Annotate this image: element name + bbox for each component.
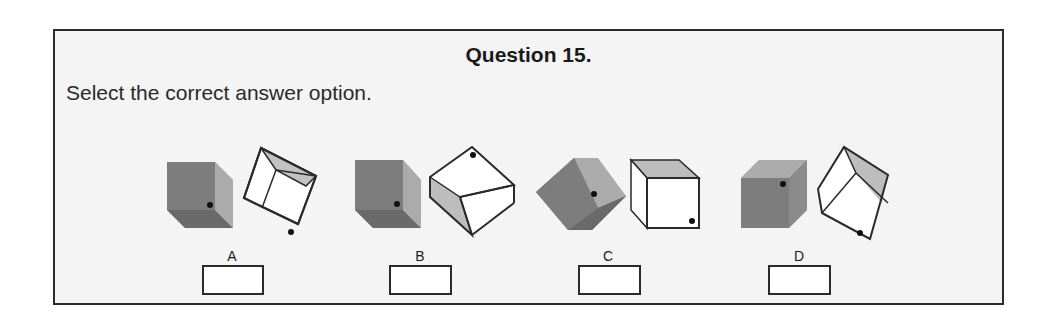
option-a-dark-cube-icon [165,160,235,232]
option-b-answer-box[interactable] [389,265,452,295]
option-a-label: A [222,248,242,264]
option-d-answer-box[interactable] [768,265,831,295]
option-d-white-cube-icon [816,145,892,243]
option-a-white-cube-icon [240,146,318,242]
option-c-answer-box[interactable] [578,265,641,295]
option-d-dark-cube-icon [739,158,809,232]
option-b-dark-cube-icon [353,158,423,232]
option-b-label: B [410,248,430,264]
option-c-dark-cube-icon [534,156,628,232]
option-b-white-cube-icon [428,145,516,245]
question-title: Question 15. [55,43,1002,67]
option-c-label: C [598,248,618,264]
option-c-white-cube-icon [629,158,701,230]
option-d-label: D [789,248,809,264]
option-a-answer-box[interactable] [202,265,264,295]
question-prompt: Select the correct answer option. [66,81,372,105]
